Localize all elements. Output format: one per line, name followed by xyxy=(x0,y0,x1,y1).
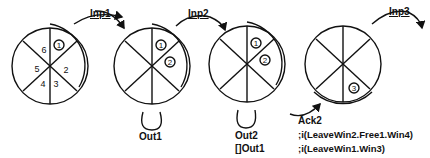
ack-line-1: ;i(LeaveWin2.Free1.Win4) xyxy=(298,129,413,140)
svg-text:2: 2 xyxy=(168,58,173,67)
svg-text:5: 5 xyxy=(34,64,39,74)
label-out2: Out2 xyxy=(235,130,258,141)
arrow-ack2 xyxy=(290,104,320,116)
state-circle-1 xyxy=(12,24,88,104)
label-out1: Out1 xyxy=(139,131,162,142)
label-ack2: Ack2 xyxy=(298,115,322,126)
label-inp2: Inp2 xyxy=(188,8,209,19)
state-circle-3 xyxy=(209,22,285,102)
state-circle-2 xyxy=(114,24,190,104)
ack-line-2: ;i(LeaveWin1.Win3) xyxy=(298,143,385,154)
svg-text:2: 2 xyxy=(63,65,68,75)
svg-text:3: 3 xyxy=(53,79,58,89)
loop-out1 xyxy=(142,112,162,130)
svg-text:1: 1 xyxy=(254,39,259,48)
loop-out2 xyxy=(237,110,256,128)
svg-text:6: 6 xyxy=(41,45,46,55)
svg-text:1: 1 xyxy=(159,41,164,50)
svg-text:4: 4 xyxy=(40,79,45,89)
state-circle-4 xyxy=(305,26,381,104)
svg-text:3: 3 xyxy=(352,84,357,93)
svg-text:2: 2 xyxy=(263,56,268,65)
label-out1-alt: []Out1 xyxy=(235,143,264,154)
label-inp1: Inp1 xyxy=(90,8,111,19)
svg-text:1: 1 xyxy=(57,41,62,50)
label-inp3: Inp3 xyxy=(389,6,410,17)
